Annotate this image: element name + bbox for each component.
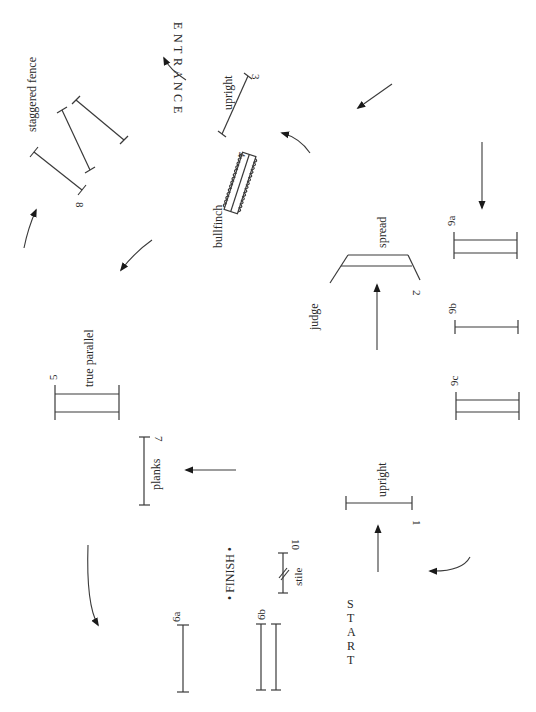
start-letter: T (347, 653, 355, 667)
fence-7-number: 7 (153, 436, 165, 442)
fence-9b: 9b (446, 303, 518, 335)
entrance-letter: C (171, 94, 185, 102)
fence-3-upright: upright 3 (218, 73, 262, 137)
arrow-icon (430, 557, 470, 571)
fence-6b-number: 6b (255, 609, 267, 621)
fence-10-label: stile (292, 568, 304, 586)
arrow-icon (282, 133, 310, 153)
arrow-icon (121, 240, 152, 270)
fence-6b: 6b (255, 609, 281, 691)
arrow-icon (88, 545, 98, 625)
start-letter: R (347, 639, 355, 653)
fence-9c-number: 9c (448, 376, 460, 387)
fence-6a-number: 6a (170, 612, 182, 623)
fence-1-label: upright (375, 462, 389, 497)
fence-4-number: 4 (236, 152, 248, 158)
entrance-letter: E (171, 106, 185, 113)
fence-1-number: 1 (411, 520, 423, 526)
fence-2-label: spread (375, 217, 389, 248)
fence-2-number: 2 (411, 290, 423, 296)
fence-4-bullfinch: 4 bullfinch (211, 152, 258, 248)
entrance-letter: N (171, 34, 185, 43)
fence-6a: 6a (170, 612, 189, 693)
start-letter: S (347, 597, 354, 611)
fence-5-label: true parallel (82, 329, 96, 387)
start-marker: S T A R T (347, 597, 356, 667)
arrow-icon (24, 210, 36, 248)
fence-5-number: 5 (47, 374, 59, 380)
entrance-letter: R (171, 58, 185, 66)
finish-marker: • FINISH • (223, 547, 237, 600)
fence-10-stile: 10 stile (278, 539, 304, 593)
fence-7-label: planks (149, 458, 163, 490)
judge-label: judge (307, 303, 321, 331)
entrance-letter: T (171, 46, 185, 54)
fence-7-planks: planks 7 (139, 436, 165, 505)
fence-5-true-parallel: 5 true parallel (47, 329, 119, 420)
fence-8-label: staggered fence (25, 57, 39, 132)
fence-9b-number: 9b (446, 303, 458, 315)
start-letter: A (347, 625, 356, 639)
course-diagram: E N T R A N C E staggered fence 8 uprigh… (0, 0, 536, 712)
fence-10-number: 10 (290, 539, 302, 551)
entrance-marker: E N T R A N C E (171, 22, 185, 113)
fence-8-staggered: staggered fence 8 (25, 57, 128, 208)
fence-1-upright: upright 1 (346, 462, 423, 526)
fence-4-label: bullfinch (211, 205, 225, 248)
fence-2-spread: spread 2 (330, 217, 423, 296)
fence-9c: 9c (448, 376, 519, 421)
fence-9a: 9a (445, 216, 517, 260)
entrance-letter: E (171, 22, 185, 29)
fence-3-number: 3 (250, 74, 262, 80)
start-letter: T (347, 611, 355, 625)
fence-9a-number: 9a (445, 216, 457, 227)
arrow-icon (358, 84, 392, 108)
fence-3-label: upright (221, 75, 235, 110)
entrance-letter: N (171, 82, 185, 91)
fence-8-number: 8 (74, 202, 86, 208)
